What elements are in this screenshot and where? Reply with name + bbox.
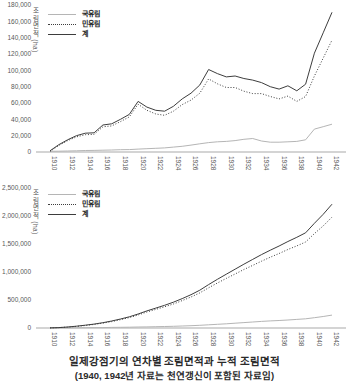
series-national-forest-line bbox=[50, 124, 332, 151]
x-tick-label: 1932 bbox=[245, 156, 252, 171]
x-tick-label: 1918 bbox=[122, 332, 129, 347]
legend-item-total: 계 bbox=[48, 29, 100, 39]
x-tick-label: 1930 bbox=[228, 332, 235, 347]
figure-afforestation-charts: 020,00040,00060,00080,000100,000120,0001… bbox=[0, 0, 349, 383]
y-tick-label: 500,000 bbox=[8, 296, 32, 303]
y-tick-label: 0 bbox=[27, 148, 31, 155]
x-tick-label: 1928 bbox=[210, 156, 217, 171]
legend-item-national-forest: 국유림 bbox=[48, 189, 100, 199]
cumulative-chart-legend: 국유림민유림계 bbox=[48, 189, 100, 219]
x-tick-label: 1936 bbox=[281, 156, 288, 171]
legend-item-private-forest: 민유림 bbox=[48, 19, 100, 29]
x-tick-label: 1916 bbox=[104, 156, 111, 171]
x-tick-label: 1912 bbox=[69, 332, 76, 347]
x-tick-label: 1914 bbox=[87, 156, 94, 171]
x-tick-label: 1924 bbox=[175, 156, 182, 171]
series-private-forest-line bbox=[50, 217, 332, 328]
legend-private-forest-label: 민유림 bbox=[82, 19, 100, 29]
x-tick-label: 1942 bbox=[333, 332, 340, 347]
x-tick-label: 1942 bbox=[333, 156, 340, 171]
figure-caption-note: (1940, 1942년 자료는 천연갱신이 포함된 자료임) bbox=[0, 368, 349, 382]
legend-national-forest-line-sample bbox=[48, 14, 76, 15]
y-tick-label: 60,000 bbox=[11, 99, 31, 106]
x-tick-label: 1938 bbox=[298, 332, 305, 347]
x-tick-label: 1922 bbox=[157, 332, 164, 347]
x-tick-label: 1940 bbox=[316, 156, 323, 171]
y-tick-label: 20,000 bbox=[11, 132, 31, 139]
x-tick-label: 1910 bbox=[51, 156, 58, 171]
legend-item-national-forest: 국유림 bbox=[48, 9, 100, 19]
x-tick-label: 1928 bbox=[210, 332, 217, 347]
y-tick-label: 80,000 bbox=[11, 83, 31, 90]
legend-total-label: 계 bbox=[82, 29, 88, 39]
legend-total-label: 계 bbox=[82, 209, 88, 219]
x-tick-label: 1934 bbox=[263, 156, 270, 171]
legend-item-total: 계 bbox=[48, 209, 100, 219]
cumulative-chart-y-axis-title: 조림면적 (ha) bbox=[30, 189, 40, 235]
legend-total-line-sample bbox=[48, 214, 76, 215]
legend-national-forest-line-sample bbox=[48, 194, 76, 195]
x-tick-label: 1932 bbox=[245, 332, 252, 347]
y-tick-label: 160,000 bbox=[8, 18, 32, 25]
y-tick-label: 40,000 bbox=[11, 116, 31, 123]
y-tick-label: 1,000,000 bbox=[2, 268, 31, 275]
legend-national-forest-label: 국유림 bbox=[82, 189, 100, 199]
y-tick-label: 140,000 bbox=[8, 34, 32, 41]
y-tick-label: 1,500,000 bbox=[2, 240, 31, 247]
legend-private-forest-label: 민유림 bbox=[82, 199, 100, 209]
x-tick-label: 1930 bbox=[228, 156, 235, 171]
x-tick-label: 1934 bbox=[263, 332, 270, 347]
annual-chart-legend: 국유림민유림계 bbox=[48, 9, 100, 39]
series-national-forest-line bbox=[50, 315, 332, 328]
x-tick-label: 1924 bbox=[175, 332, 182, 347]
x-tick-label: 1936 bbox=[281, 332, 288, 347]
x-tick-label: 1926 bbox=[192, 332, 199, 347]
annual-chart-y-axis-title: 조림면적 (ha) bbox=[30, 7, 40, 53]
y-tick-label: 2,000,000 bbox=[2, 212, 31, 219]
y-tick-label: 100,000 bbox=[8, 67, 32, 74]
legend-private-forest-line-sample bbox=[48, 204, 76, 205]
x-tick-label: 1918 bbox=[122, 156, 129, 171]
x-tick-label: 1914 bbox=[87, 332, 94, 347]
legend-total-line-sample bbox=[48, 34, 76, 35]
x-tick-label: 1940 bbox=[316, 332, 323, 347]
x-tick-label: 1912 bbox=[69, 156, 76, 171]
x-tick-label: 1926 bbox=[192, 156, 199, 171]
y-tick-label: 180,000 bbox=[8, 1, 32, 8]
series-private-forest-line bbox=[50, 40, 332, 151]
y-tick-label: 2,500,000 bbox=[2, 184, 31, 191]
x-tick-label: 1920 bbox=[140, 156, 147, 171]
x-tick-label: 1916 bbox=[104, 332, 111, 347]
legend-item-private-forest: 민유림 bbox=[48, 199, 100, 209]
x-tick-label: 1910 bbox=[51, 332, 58, 347]
y-tick-label: 120,000 bbox=[8, 50, 32, 57]
x-tick-label: 1920 bbox=[140, 332, 147, 347]
y-tick-label: 0 bbox=[27, 324, 31, 331]
legend-national-forest-label: 국유림 bbox=[82, 9, 100, 19]
figure-caption-title: 일제강점기의 연차별 조림면적과 누적 조림면적 bbox=[0, 353, 349, 368]
x-tick-label: 1938 bbox=[298, 156, 305, 171]
series-total-line bbox=[50, 204, 332, 328]
x-tick-label: 1922 bbox=[157, 156, 164, 171]
legend-private-forest-line-sample bbox=[48, 24, 76, 25]
